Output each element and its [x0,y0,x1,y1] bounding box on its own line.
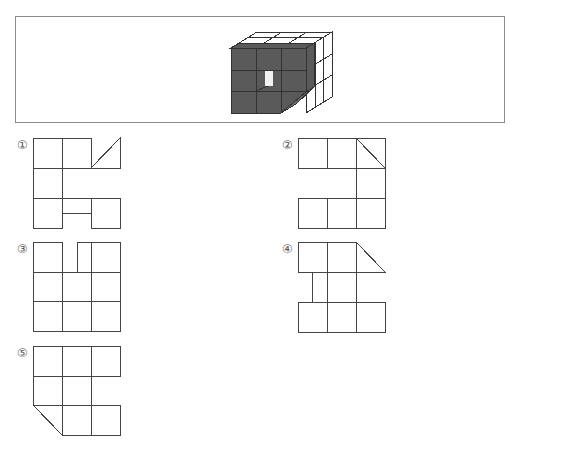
net-option-5[interactable] [0,0,566,454]
